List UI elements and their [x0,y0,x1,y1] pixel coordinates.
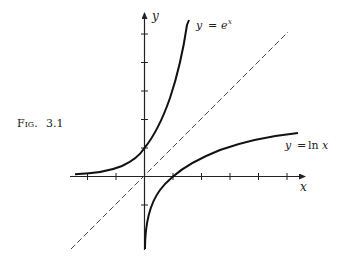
y-axis-label: y [151,9,159,23]
svg-text:=: = [208,19,217,32]
x-axis-label: x [300,180,307,194]
svg-text:=: = [297,139,306,152]
svg-text:x: x [228,18,232,26]
svg-text:3.1: 3.1 [46,117,64,130]
ln-label: y = ln x [284,139,329,152]
svg-text:e: e [221,19,228,32]
svg-text:ln: ln [308,139,319,152]
exp-label: y = e x [195,18,232,32]
exp-curve [75,20,189,174]
svg-text:Fig.: Fig. [17,117,38,130]
ln-curve [145,133,298,249]
svg-text:x: x [322,139,329,152]
svg-text:y: y [195,19,203,32]
figure-canvas: y x y = e x y = ln x Fig. 3.1 [0,0,338,264]
svg-text:y: y [284,139,292,152]
figure-caption: Fig. 3.1 [17,117,64,130]
